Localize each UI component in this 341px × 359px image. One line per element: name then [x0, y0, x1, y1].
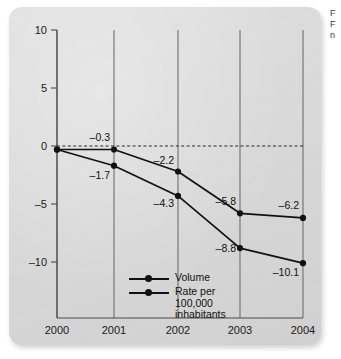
series-rate-point-2001 — [111, 163, 117, 169]
x-tick-label-2001: 2001 — [102, 324, 126, 336]
series-rate-point-2003 — [237, 245, 243, 251]
series-rate-point-2004 — [300, 260, 306, 266]
y-tick-label-10: 10 — [35, 24, 47, 36]
y-tick-label-5: 5 — [41, 82, 47, 94]
value-label-volume-2004: –6.2 — [279, 199, 300, 211]
x-tick-label-2002: 2002 — [166, 324, 190, 336]
x-tick-label-2004: 2004 — [291, 324, 315, 336]
x-tick-label-2000: 2000 — [45, 324, 69, 336]
legend-line-dot-icon-volume — [127, 272, 171, 286]
series-volume-point-2003 — [237, 210, 243, 216]
legend-label-volume: Volume — [171, 272, 210, 284]
legend-item-rate[interactable]: Rate per 100,000 inhabitants — [127, 286, 219, 300]
series-volume-point-2002 — [175, 168, 181, 174]
series-rate-point-2000 — [54, 146, 60, 152]
series-volume-point-2004 — [300, 215, 306, 221]
x-tick-label-2003: 2003 — [228, 324, 252, 336]
series-volume — [54, 146, 306, 221]
y-axis — [51, 30, 57, 318]
series-rate-point-2002 — [175, 193, 181, 199]
value-label-volume-2001: –0.3 — [90, 131, 111, 143]
y-tick-label-0: 0 — [41, 140, 47, 152]
y-tick-label-minus10: –10 — [29, 256, 47, 268]
chart-panel: 10 5 0 –5 –10 2000 2001 2002 2003 2004 — [9, 7, 321, 345]
legend-item-volume[interactable]: Volume — [127, 272, 219, 286]
value-label-volume-2003: –5.8 — [216, 195, 237, 207]
chart-legend: Volume Rate per 100,000 inhabitants — [127, 272, 219, 300]
clipped-edge-caption: F F n — [330, 8, 341, 41]
value-label-rate-2004: –10.1 — [273, 266, 299, 278]
y-tick-label-minus5: –5 — [35, 198, 47, 210]
series-volume-point-2001 — [111, 146, 117, 152]
legend-line-dot-icon-rate — [127, 286, 171, 300]
series-rate-line — [57, 150, 303, 264]
value-label-rate-2001: –1.7 — [90, 169, 111, 181]
value-label-volume-2002: –2.2 — [154, 154, 175, 166]
legend-label-rate: Rate per 100,000 inhabitants — [171, 286, 226, 321]
value-label-rate-2003: –8.8 — [216, 242, 237, 254]
series-rate — [54, 146, 306, 266]
value-label-rate-2002: –4.3 — [154, 197, 175, 209]
